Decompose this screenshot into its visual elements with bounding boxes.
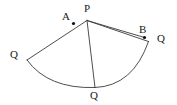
segment-p-to-bottom-q [87, 21, 95, 88]
point-marker-a [72, 22, 75, 25]
vertex-label-q-right: Q [157, 33, 165, 44]
segment-p-to-left-q [27, 21, 87, 61]
vertex-label-p: P [84, 3, 90, 14]
vertex-label-b: B [139, 24, 146, 35]
point-marker-b [143, 36, 146, 39]
vertex-label-q-bottom: Q [90, 90, 98, 101]
geometry-figure: P A B Q Q Q [0, 0, 177, 105]
sector-radii-group [27, 21, 149, 88]
vertex-label-q-left: Q [10, 49, 18, 60]
sector-diagram-canvas [0, 0, 177, 105]
segment-p-to-b [87, 21, 145, 38]
vertex-label-a: A [62, 11, 70, 22]
